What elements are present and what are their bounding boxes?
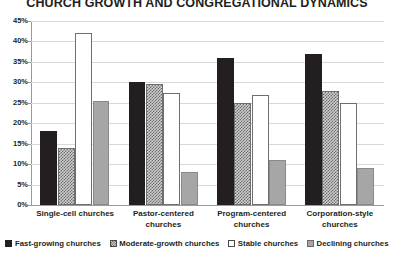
legend-label: Stable churches xyxy=(238,239,298,248)
y-axis-label: 45% xyxy=(0,17,28,25)
bar-chart: CHURCH GROWTH AND CONGREGATIONAL DYNAMIC… xyxy=(0,0,394,255)
bar-moderate-growth-churches[interactable] xyxy=(322,91,339,205)
bar-fast-growing-churches[interactable] xyxy=(217,58,234,205)
x-axis-label: Pastor-centered churches xyxy=(119,209,207,230)
legend-label: Moderate-growth churches xyxy=(119,239,219,248)
legend-swatch-icon xyxy=(228,240,235,247)
bar-fast-growing-churches[interactable] xyxy=(40,131,57,205)
bar-moderate-growth-churches[interactable] xyxy=(234,103,251,205)
bar-stable-churches[interactable] xyxy=(163,93,180,205)
legend-label: Fast-growing churches xyxy=(15,239,101,248)
legend-swatch-icon xyxy=(307,240,314,247)
y-axis-label: 10% xyxy=(0,160,28,168)
y-axis-tick xyxy=(28,205,31,206)
x-axis-label: Single-cell churches xyxy=(31,209,119,220)
bar-stable-churches[interactable] xyxy=(340,103,357,205)
y-axis-label: 35% xyxy=(0,58,28,66)
y-axis-label: 25% xyxy=(0,99,28,107)
plot-area xyxy=(31,21,384,205)
y-axis-label: 15% xyxy=(0,140,28,148)
bar-stable-churches[interactable] xyxy=(252,95,269,205)
legend-item[interactable]: Declining churches xyxy=(307,239,388,248)
legend-label: Declining churches xyxy=(317,239,389,248)
legend-item[interactable]: Stable churches xyxy=(228,239,298,248)
bar-moderate-growth-churches[interactable] xyxy=(58,148,75,205)
legend-item[interactable]: Fast-growing churches xyxy=(5,239,100,248)
y-axis-label: 0% xyxy=(0,201,28,209)
y-axis-label: 20% xyxy=(0,119,28,127)
bar-group xyxy=(208,21,296,205)
chart-title: CHURCH GROWTH AND CONGREGATIONAL DYNAMIC… xyxy=(0,0,394,11)
y-axis-label: 5% xyxy=(0,181,28,189)
y-axis-label: 40% xyxy=(0,37,28,45)
bar-stable-churches[interactable] xyxy=(75,33,92,205)
bar-fast-growing-churches[interactable] xyxy=(129,82,146,205)
chart-legend: Fast-growing churchesModerate-growth chu… xyxy=(0,239,394,248)
bar-declining-churches[interactable] xyxy=(93,101,110,205)
legend-swatch-icon xyxy=(110,240,117,247)
bar-moderate-growth-churches[interactable] xyxy=(146,84,163,205)
bar-group xyxy=(119,21,207,205)
bar-fast-growing-churches[interactable] xyxy=(305,54,322,205)
bar-declining-churches[interactable] xyxy=(181,172,198,205)
legend-swatch-icon xyxy=(5,240,12,247)
bar-group xyxy=(31,21,119,205)
bar-declining-churches[interactable] xyxy=(357,168,374,205)
legend-item[interactable]: Moderate-growth churches xyxy=(110,239,220,248)
gridline xyxy=(31,205,384,206)
y-axis-label: 30% xyxy=(0,78,28,86)
x-axis-label: Corporation-style churches xyxy=(296,209,384,230)
x-axis-label: Program-centered churches xyxy=(208,209,296,230)
bar-group xyxy=(296,21,384,205)
bar-declining-churches[interactable] xyxy=(269,160,286,205)
